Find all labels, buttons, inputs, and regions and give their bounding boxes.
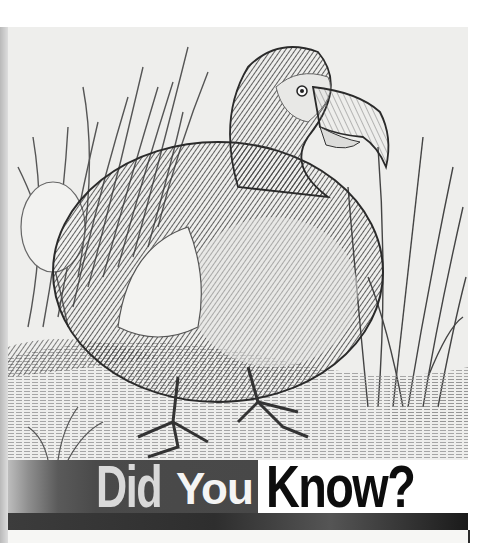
dodo-illustration	[8, 27, 468, 460]
banner-word-you: You	[176, 463, 253, 515]
sidebar-right-rule	[468, 530, 470, 543]
sidebar-content-area	[8, 530, 468, 543]
did-you-know-banner: Did You Know?	[8, 460, 468, 530]
banner-word-did: Did	[96, 454, 161, 520]
banner-word-know: Know?	[266, 454, 414, 520]
dodo-engraving-image	[8, 27, 468, 460]
